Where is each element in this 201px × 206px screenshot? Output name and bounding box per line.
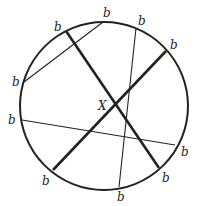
intersection-label-x: X xyxy=(97,99,107,113)
endpoint-label-b: b xyxy=(54,20,62,34)
thin-chord-b xyxy=(119,28,136,187)
endpoint-label-b: b xyxy=(162,171,170,185)
endpoint-label-b: b xyxy=(103,6,111,20)
endpoint-label-b: b xyxy=(181,145,189,159)
endpoint-label-b: b xyxy=(8,113,16,127)
thick-chord-1 xyxy=(66,31,159,168)
endpoint-label-b: b xyxy=(42,174,50,188)
circle-chord-diagram: bbbbbbbbbb X xyxy=(0,0,201,206)
endpoint-label-b: b xyxy=(170,38,178,52)
endpoint-label-b: b xyxy=(117,190,125,204)
thin-chord-a xyxy=(24,22,103,82)
endpoint-label-b: b xyxy=(138,14,146,28)
thick-chords xyxy=(53,31,166,170)
endpoint-label-b: b xyxy=(12,75,20,89)
